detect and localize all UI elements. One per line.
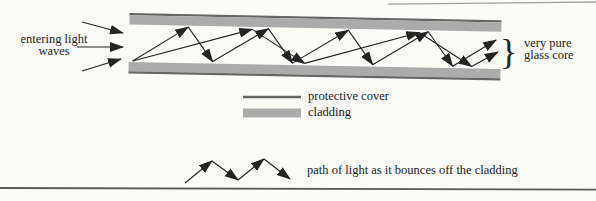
glass-core-label: very pure glass core	[524, 37, 574, 61]
core-brace: }	[500, 34, 517, 70]
light-ray-shallow	[133, 27, 499, 68]
figure-canvas: entering light waves } very pure glass c…	[0, 0, 596, 201]
light-path-swatch	[185, 159, 290, 183]
entering-light-label: entering light waves	[6, 34, 102, 57]
entering-arrow-top	[82, 22, 123, 33]
fiber-cable	[128, 13, 501, 81]
bottom-rule	[0, 188, 596, 190]
entering-arrow-bottom	[82, 59, 121, 71]
legend-cladding-label: cladding	[308, 107, 351, 119]
legend-protective-cover-label: protective cover	[308, 91, 389, 103]
glass-core-label-line2: glass core	[524, 49, 574, 61]
cladding-swatch	[243, 109, 301, 118]
entering-light-label-line2: waves	[6, 46, 102, 58]
top-right-rule	[388, 2, 596, 4]
legend-light-path-label: path of light as it bounces off the clad…	[307, 165, 518, 177]
